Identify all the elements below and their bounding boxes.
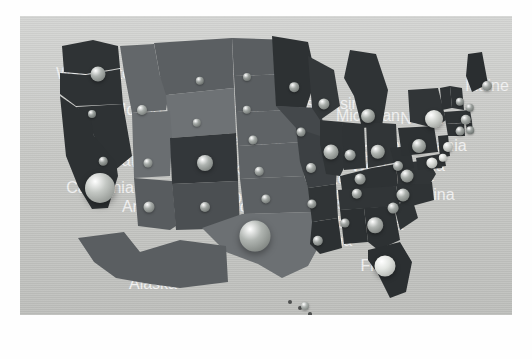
bubble-marker-georgia[interactable] (367, 217, 383, 233)
bubble-marker-alabama[interactable] (341, 219, 350, 228)
bubble-marker-hawaii[interactable] (301, 302, 309, 310)
bubble-marker-north-dakota[interactable] (243, 73, 251, 81)
bubble-marker-illinois[interactable] (324, 145, 339, 160)
bubble-marker-maine[interactable] (482, 81, 492, 91)
bubble-marker-new-hampshire[interactable] (466, 104, 474, 112)
us-bubble-map[interactable]: WashingtonOregonIdahoMontanaWyomingNorth… (20, 16, 512, 315)
bubble-marker-virginia[interactable] (401, 170, 414, 183)
bubble-marker-west-virginia[interactable] (393, 161, 403, 171)
bubble-marker-florida[interactable] (375, 256, 396, 277)
bubble-marker-kansas[interactable] (255, 167, 264, 176)
bubble-marker-south-carolina[interactable] (388, 203, 399, 214)
bubble-marker-michigan[interactable] (361, 109, 375, 123)
bubble-marker-iowa[interactable] (297, 128, 306, 137)
bubble-marker-nebraska[interactable] (249, 136, 258, 145)
bubble-marker-north-carolina[interactable] (397, 189, 410, 202)
bubble-marker-delaware[interactable] (439, 154, 447, 162)
bubble-marker-colorado[interactable] (197, 155, 213, 171)
bubble-marker-rhode-island[interactable] (466, 126, 474, 134)
hawaii-island-1 (288, 300, 292, 304)
bubble-marker-utah[interactable] (144, 159, 153, 168)
page-root: WashingtonOregonIdahoMontanaWyomingNorth… (0, 0, 532, 359)
bubble-marker-washington[interactable] (91, 67, 106, 82)
bubble-marker-kentucky[interactable] (355, 174, 366, 185)
bubble-marker-california[interactable] (85, 173, 115, 203)
hawaii-island-3 (308, 312, 312, 315)
bubble-marker-texas[interactable] (240, 221, 271, 252)
bubble-marker-pennsylvania[interactable] (412, 139, 426, 153)
bubble-marker-idaho[interactable] (137, 105, 147, 115)
bubble-marker-new-mexico[interactable] (200, 202, 210, 212)
bubble-marker-nevada[interactable] (99, 157, 108, 166)
bubble-marker-indiana[interactable] (345, 150, 356, 161)
bubble-marker-minnesota[interactable] (289, 82, 299, 92)
bubble-marker-missouri[interactable] (306, 163, 316, 173)
bubble-marker-connecticut[interactable] (456, 127, 465, 136)
bubble-marker-oregon[interactable] (88, 110, 96, 118)
bubble-marker-new-york[interactable] (425, 110, 443, 128)
bubble-marker-arizona[interactable] (144, 202, 155, 213)
bubble-marker-new-jersey[interactable] (443, 142, 453, 152)
